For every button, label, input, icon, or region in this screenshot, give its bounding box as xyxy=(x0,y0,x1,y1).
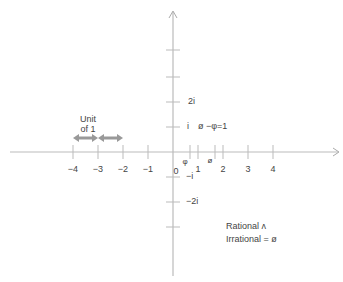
tick-label-neg-2i: −2i xyxy=(186,197,198,206)
tick-label-neg3: −3 xyxy=(93,165,103,174)
arrow-left-icon xyxy=(73,134,79,142)
golden-ratio-equation: ø −φ=1 xyxy=(198,122,227,131)
tick-label-2: 2 xyxy=(220,165,225,174)
arrow-right-icon xyxy=(117,134,123,142)
complex-plane-diagram xyxy=(0,0,343,282)
unit-label: Unit of 1 xyxy=(80,114,96,134)
unit-label-line2: of 1 xyxy=(80,124,96,134)
tick-label-i: i xyxy=(187,122,189,131)
arrow-left-icon xyxy=(98,134,104,142)
tick-label-0: 0 xyxy=(173,167,178,176)
tick-label-neg4: −4 xyxy=(68,165,78,174)
arrow-right-icon xyxy=(92,134,98,142)
tick-label-neg2: −2 xyxy=(118,165,128,174)
unit-arrows xyxy=(73,134,123,142)
phi-label: φ xyxy=(182,158,187,166)
legend: Rational ʌ Irrational = ø xyxy=(226,220,277,246)
tick-label-neg1: −1 xyxy=(143,165,153,174)
tick-label-4: 4 xyxy=(270,165,275,174)
tick-label-3: 3 xyxy=(245,165,250,174)
legend-irrational: Irrational = ø xyxy=(226,233,277,246)
tick-label-2i: 2i xyxy=(188,97,195,106)
unit-label-line1: Unit xyxy=(80,114,96,124)
tick-label-neg-i: −i xyxy=(186,172,193,181)
tick-label-1: 1 xyxy=(195,165,200,174)
legend-rational: Rational ʌ xyxy=(226,220,277,233)
golden-ratio-label: ø xyxy=(208,157,213,165)
